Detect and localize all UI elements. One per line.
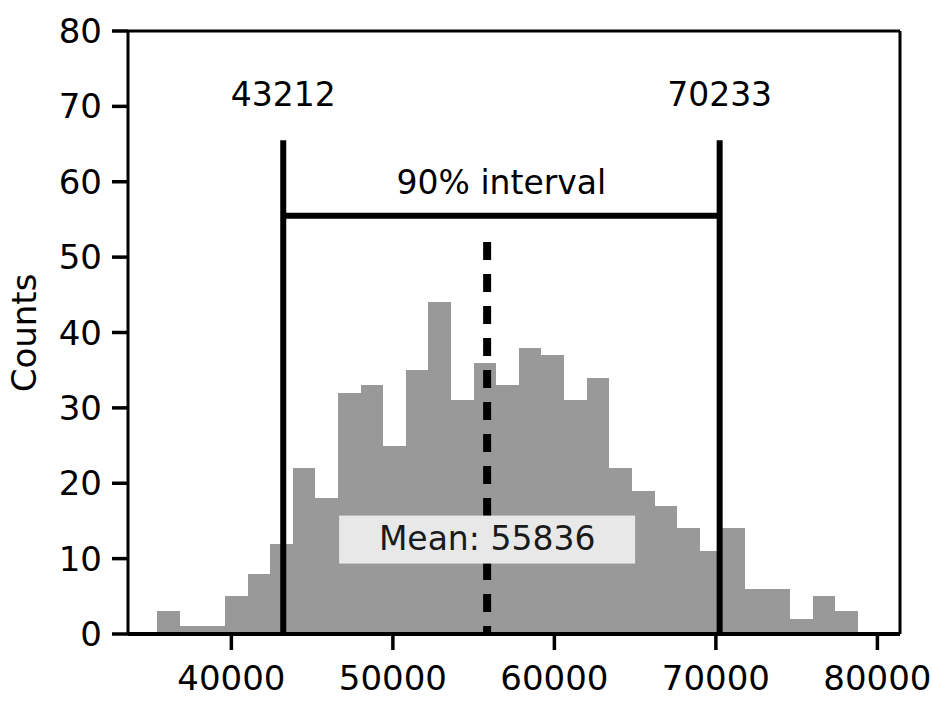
y-tick-label: 40 (59, 313, 102, 353)
histogram-bar (361, 385, 384, 634)
y-axis-tick-labels: 01020304050607080 (59, 11, 102, 654)
histogram-bar (315, 498, 338, 634)
x-tick-label: 50000 (339, 658, 447, 698)
histogram-plot: 4000050000600007000080000 01020304050607… (0, 0, 932, 706)
y-tick-label: 70 (59, 86, 102, 126)
mean-label: Mean: 55836 (379, 519, 596, 558)
histogram-bar (745, 589, 768, 634)
x-tick-label: 60000 (500, 658, 608, 698)
interval-caption-label: 90% interval (397, 163, 607, 202)
histogram-bar (722, 528, 745, 634)
histogram-bar (157, 611, 180, 634)
histogram-figure: 4000050000600007000080000 01020304050607… (0, 0, 932, 706)
histogram-bar (338, 393, 361, 634)
histogram-bar (632, 491, 655, 634)
histogram-bar (293, 468, 316, 634)
histogram-bar (225, 596, 248, 634)
interval-upper-label: 70233 (667, 75, 772, 114)
y-tick-label: 10 (59, 539, 102, 579)
histogram-bar (790, 619, 813, 634)
histogram-bar (677, 528, 700, 634)
histogram-bar (248, 574, 271, 634)
y-tick-label: 80 (59, 11, 102, 51)
y-tick-label: 0 (80, 614, 102, 654)
histogram-bar (835, 611, 858, 634)
histogram-bar (768, 589, 791, 634)
histogram-bar (519, 348, 542, 634)
x-tick-label: 40000 (177, 658, 285, 698)
histogram-bar (813, 596, 836, 634)
histogram-bar (541, 355, 564, 634)
histogram-bar (587, 378, 610, 634)
y-axis-title: Counts (4, 274, 44, 393)
histogram-bar (428, 302, 451, 634)
y-tick-label: 20 (59, 463, 102, 503)
histogram-bar (496, 385, 519, 634)
histogram-bar (406, 370, 429, 634)
x-tick-label: 80000 (823, 658, 931, 698)
y-tick-label: 30 (59, 388, 102, 428)
x-tick-label: 70000 (662, 658, 770, 698)
interval-lower-label: 43212 (231, 75, 336, 114)
histogram-bar (655, 506, 678, 634)
y-tick-label: 50 (59, 237, 102, 277)
y-tick-label: 60 (59, 162, 102, 202)
